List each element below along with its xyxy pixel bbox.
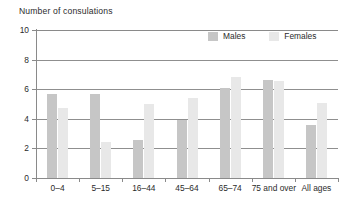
chart-legend: Males Females [208,31,316,41]
x-tick-3 [165,178,166,182]
y-tick-label-8: 8 [9,55,29,65]
chart-screenshot: Number of consulations 0246810 0–45–1516… [0,0,349,204]
x-tick-0 [36,178,37,182]
y-tick-label-10: 10 [9,25,29,35]
bar-males-6 [306,125,316,178]
bar-females-3 [188,98,198,178]
bar-males-1 [90,94,100,178]
legend-item-males[interactable]: Males [208,31,245,41]
x-axis-line [36,178,339,179]
y-tick-label-0: 0 [9,173,29,183]
x-tick-5 [252,178,253,182]
x-tick-4 [209,178,210,182]
x-tick-1 [79,178,80,182]
y-tick-label-6: 6 [9,84,29,94]
females-swatch-icon [269,32,279,41]
bar-females-5 [274,81,284,178]
x-tick-label-3: 45–64 [165,183,208,193]
bar-males-3 [177,120,187,178]
plot-area [36,30,338,178]
y-tick-label-2: 2 [9,143,29,153]
bar-males-2 [133,140,143,178]
x-tick-6 [295,178,296,182]
legend-label-females: Females [284,31,316,41]
x-tick-label-4: 65–74 [209,183,252,193]
bar-females-6 [317,103,327,178]
x-tick-label-1: 5–15 [79,183,122,193]
y-tick-label-4: 4 [9,114,29,124]
bar-males-5 [263,80,273,178]
bar-females-1 [101,142,111,178]
males-swatch-icon [208,32,218,41]
x-tick-end [338,178,339,182]
bar-females-2 [144,104,154,178]
legend-label-males: Males [223,31,245,41]
legend-item-females[interactable]: Females [269,31,316,41]
bar-females-4 [231,77,241,178]
bar-males-4 [220,88,230,178]
x-tick-label-2: 16–44 [122,183,165,193]
chart-title: Number of consulations [19,6,113,16]
x-tick-label-5: 75 and over [252,183,295,193]
x-tick-label-0: 0–4 [36,183,79,193]
x-tick-label-6: All ages [295,183,338,193]
bar-females-0 [58,108,68,178]
bar-males-0 [47,94,57,178]
x-tick-2 [122,178,123,182]
